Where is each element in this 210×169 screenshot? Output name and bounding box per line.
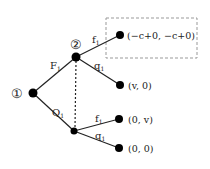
game-tree-diagram: ① ② F1 Q1 f1 q1 f1 q1 (−c+0, −c+0) (v, 0…	[0, 0, 210, 169]
player2-label: ②	[70, 37, 82, 52]
leaf-node-1	[116, 31, 124, 39]
player2-node	[72, 53, 81, 62]
edge-label-q1-bottom: q1	[95, 130, 105, 142]
payoff-4: (0, 0)	[128, 143, 154, 154]
edge-label-F1: F1	[50, 60, 61, 72]
root-label: ①	[11, 86, 23, 101]
edge-label-f1-bottom: f1	[95, 113, 103, 125]
payoff-3: (0, v)	[128, 114, 153, 125]
leaf-node-3	[115, 115, 123, 123]
payoff-1: (−c+0, −c+0)	[127, 30, 195, 41]
leaf-node-4	[115, 144, 123, 152]
edge-label-Q1: Q1	[52, 107, 64, 119]
information-set-line	[75, 61, 76, 128]
edge-label-f1-top: f1	[92, 34, 100, 46]
lower-node	[71, 128, 78, 135]
payoff-2: (v, 0)	[128, 80, 152, 91]
leaf-node-2	[116, 81, 124, 89]
edge-label-q1-top: q1	[94, 60, 104, 72]
root-node	[29, 89, 38, 98]
